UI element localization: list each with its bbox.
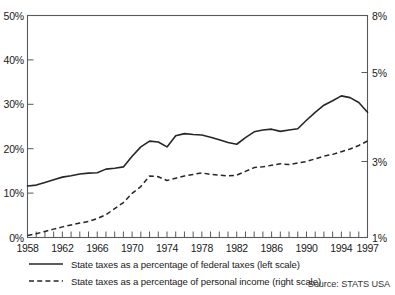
x-tick-label: 1966 <box>86 242 109 254</box>
left-tick-label-50: 50% <box>4 10 24 22</box>
x-tick-label: 1978 <box>191 242 214 254</box>
x-tick-label: 1970 <box>121 242 144 254</box>
left-tick-label-40: 40% <box>4 54 24 66</box>
x-tick-label: 1990 <box>295 242 318 254</box>
line-chart: 50% 40% 30% 20% 10% 0% 8% 5% 3% 1% 19581… <box>0 0 395 295</box>
left-tick-label-30: 30% <box>4 98 24 110</box>
x-tick-label: 1982 <box>226 242 249 254</box>
x-tick-label: 1986 <box>261 242 284 254</box>
left-tick-label-20: 20% <box>4 143 24 155</box>
source-note: Source: STATS USA <box>308 279 391 289</box>
chart-container: 50% 40% 30% 20% 10% 0% 8% 5% 3% 1% 19581… <box>0 0 395 295</box>
x-tick-label: 1958 <box>16 242 39 254</box>
x-tick-label: 1974 <box>156 242 179 254</box>
right-tick-label-3: 3% <box>372 156 387 168</box>
legend-label-1: State taxes as a percentage of personal … <box>71 276 321 287</box>
right-tick-label-5: 5% <box>372 67 387 79</box>
x-tick-label: 1962 <box>51 242 74 254</box>
left-tick-label-10: 10% <box>4 187 24 199</box>
x-tick-label: 1997 <box>356 242 379 254</box>
x-tick-label: 1994 <box>330 242 353 254</box>
right-tick-label-8: 8% <box>372 10 387 22</box>
legend-label-0: State taxes as a percentage of federal t… <box>71 259 300 270</box>
